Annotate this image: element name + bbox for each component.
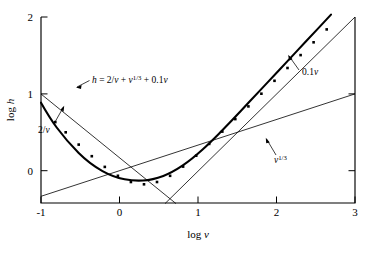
nu-one-third-exp: 1/3 [278, 154, 287, 161]
y-tick-label-1: 1 [28, 88, 34, 100]
equation-term3: 0.1 [152, 75, 164, 85]
x-axis-title-nu: ν [204, 228, 209, 240]
data-marker [182, 165, 185, 168]
data-marker [130, 181, 133, 184]
data-marker [143, 183, 146, 186]
svg-text:log h: log h [4, 98, 16, 121]
data-marker [117, 175, 120, 178]
data-marker [156, 181, 159, 184]
data-marker [77, 143, 80, 146]
x-tick-label--1: -1 [36, 206, 45, 218]
y-axis-title-h: h [4, 98, 16, 104]
two-over-nu-label-text: 2/ν [38, 125, 50, 135]
y-axis-title-log: log [4, 107, 16, 122]
data-marker [247, 105, 250, 108]
data-marker [208, 143, 211, 146]
data-marker [195, 154, 198, 157]
zero-one-nu-coef: 0.1 [302, 67, 314, 77]
chart-canvas: -1 0 1 2 3 0 1 2 log h log ν [0, 0, 374, 253]
data-marker [260, 92, 263, 95]
data-marker [91, 155, 94, 158]
data-marker [299, 54, 302, 57]
x-tick-label-0: 0 [117, 206, 123, 218]
x-tick-label-1: 1 [195, 206, 201, 218]
data-marker [286, 67, 289, 70]
x-tick-label-3: 3 [352, 206, 358, 218]
figure-container: -1 0 1 2 3 0 1 2 log h log ν [0, 0, 374, 253]
data-marker [325, 28, 328, 31]
data-marker [221, 130, 224, 133]
data-marker [273, 80, 276, 83]
x-axis-title: log ν [187, 228, 209, 240]
data-marker [64, 131, 67, 134]
data-marker [104, 166, 107, 169]
data-marker [169, 175, 172, 178]
x-axis-title-log: log [187, 228, 202, 240]
data-marker [234, 118, 237, 121]
zero-one-nu-label-text: 0.1ν [302, 67, 319, 77]
y-tick-label-2: 2 [28, 11, 34, 23]
x-tick-label-2: 2 [274, 206, 280, 218]
svg-text:log ν: log ν [187, 228, 209, 240]
y-axis-title: log h [4, 98, 16, 121]
equation-label-text: h = 2/ν + ν1/3 + 0.1ν [92, 74, 168, 86]
data-marker [312, 41, 315, 44]
y-tick-label-0: 0 [28, 165, 34, 177]
